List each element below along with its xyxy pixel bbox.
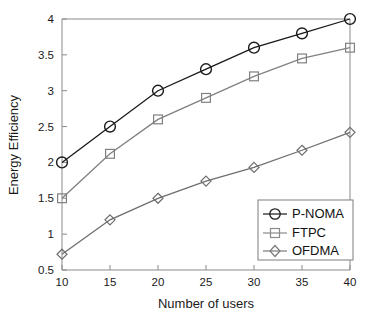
- legend-item-p-noma[interactable]: P-NOMA: [263, 206, 344, 221]
- y-tick-label: 2: [48, 156, 54, 168]
- legend-label-ftpc: FTPC: [292, 225, 326, 240]
- x-tick-label: 20: [152, 276, 165, 288]
- y-axis-title: Energy Efficiency: [6, 94, 21, 195]
- y-tick-label: 1: [48, 228, 54, 240]
- y-tick-label: 3.5: [38, 49, 54, 61]
- y-tick-label: 3: [48, 85, 54, 97]
- y-tick-label: 1.5: [38, 192, 54, 204]
- legend-label-p-noma: P-NOMA: [292, 206, 344, 221]
- x-axis-title: Number of users: [158, 296, 255, 311]
- x-tick-label: 35: [296, 276, 309, 288]
- legend-label-ofdma: OFDMA: [292, 243, 339, 258]
- y-tick-label: 2.5: [38, 121, 54, 133]
- y-tick-label: 0.5: [38, 264, 54, 276]
- x-tick-label: 25: [200, 276, 213, 288]
- y-tick-label: 4: [48, 13, 55, 25]
- x-tick-label: 15: [104, 276, 117, 288]
- x-tick-label: 30: [248, 276, 261, 288]
- x-tick-label: 40: [344, 276, 357, 288]
- x-tick-label: 10: [56, 276, 69, 288]
- chart-figure: 0.511.522.533.54 10152025303540 Energy E…: [0, 0, 374, 322]
- energy-efficiency-line-chart: 0.511.522.533.54 10152025303540 Energy E…: [0, 0, 374, 322]
- legend[interactable]: P-NOMA FTPC OFDMA: [258, 200, 353, 260]
- legend-item-ofdma[interactable]: OFDMA: [263, 243, 339, 258]
